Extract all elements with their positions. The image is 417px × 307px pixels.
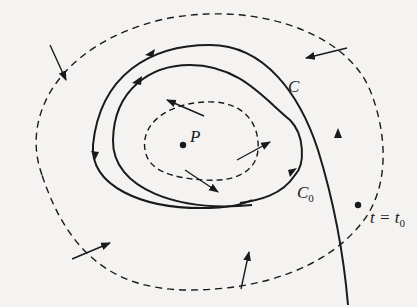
label-P: P: [189, 127, 200, 146]
bleed-through-text: [0, 0, 417, 307]
label-C: C: [288, 77, 300, 96]
initial-point: [355, 202, 361, 208]
phase-portrait-diagram: P C C0 t = t0: [0, 0, 417, 307]
label-t-main: t = t: [370, 208, 401, 227]
label-t-sub: 0: [399, 217, 405, 229]
label-C0-sub: 0: [308, 192, 314, 204]
equilibrium-point-P: [180, 142, 186, 148]
label-C0-main: C: [297, 183, 309, 202]
